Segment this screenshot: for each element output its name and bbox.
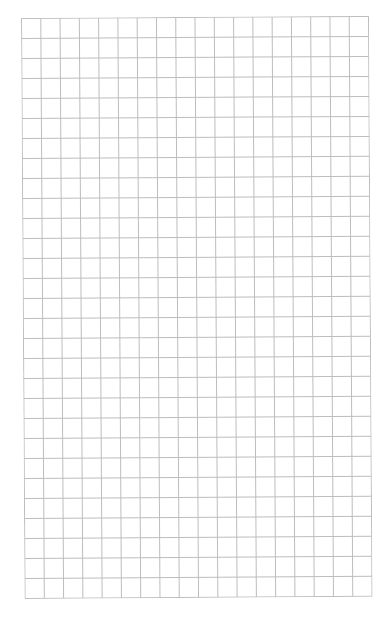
grid-lines: [21, 16, 373, 599]
graph-paper-grid: [21, 16, 372, 598]
